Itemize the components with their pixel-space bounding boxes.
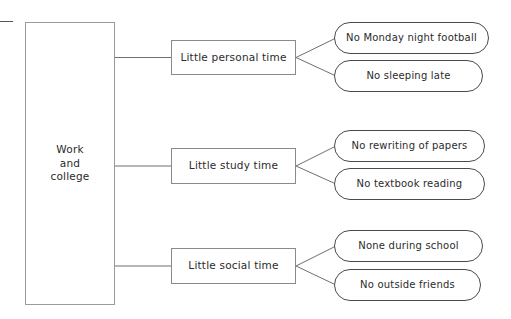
- diagram-canvas: Work and college Little personal time No…: [0, 0, 511, 319]
- node-root-line-3: college: [50, 170, 89, 184]
- node-detail-sleeping-late[interactable]: No sleeping late: [334, 60, 483, 92]
- node-branch-personal[interactable]: Little personal time: [171, 40, 296, 75]
- connector-personal-to-monday-football: [296, 38, 336, 58]
- node-detail-rewriting-papers[interactable]: No rewriting of papers: [334, 130, 485, 162]
- connector-social-to-outside-friends: [296, 266, 336, 285]
- node-detail-outside-friends[interactable]: No outside friends: [334, 269, 481, 301]
- node-branch-social[interactable]: Little social time: [171, 248, 296, 284]
- node-detail-textbook-reading[interactable]: No textbook reading: [334, 168, 485, 200]
- edge-stub-mark: [0, 21, 13, 22]
- node-root-line-1: Work: [56, 143, 83, 157]
- connector-social-to-none-during-school: [296, 246, 336, 266]
- node-detail-monday-football[interactable]: No Monday night football: [334, 22, 489, 54]
- node-root-line-2: and: [60, 157, 80, 171]
- node-branch-study[interactable]: Little study time: [171, 148, 296, 184]
- node-root-work-and-college[interactable]: Work and college: [25, 22, 115, 305]
- node-detail-none-during-school[interactable]: None during school: [334, 230, 483, 262]
- connector-personal-to-sleeping-late: [296, 58, 336, 77]
- connector-study-to-rewriting-papers: [296, 146, 336, 166]
- connector-study-to-textbook-reading: [296, 166, 336, 184]
